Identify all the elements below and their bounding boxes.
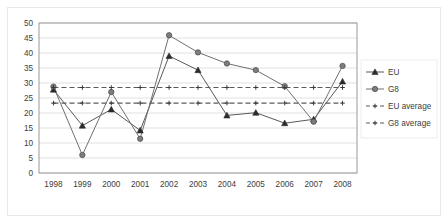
data-point-marker-plus [196,85,201,90]
data-point-marker-circle [311,119,316,124]
y-tick-label: 10 [24,139,34,148]
data-point-marker-plus [196,101,201,106]
legend-item-label: EU [388,68,399,77]
y-tick-label: 40 [24,49,34,58]
data-point-marker-plus [373,104,378,109]
y-tick-label: 0 [28,169,33,178]
x-tick-label: 2004 [218,180,237,189]
data-point-marker-plus [282,101,287,106]
data-point-marker-circle [253,67,258,72]
data-point-marker-plus [254,85,259,90]
legend-item-g8-average[interactable]: G8 average [366,119,431,128]
data-point-marker-plus [225,101,230,106]
legend-item-label: G8 average [388,119,431,128]
legend-item-label: EU average [388,102,432,111]
data-point-marker-triangle [339,78,345,84]
y-tick-label: 5 [28,154,33,163]
data-point-marker-plus [340,101,345,106]
data-point-marker-plus [80,101,85,106]
x-tick-label: 2003 [189,180,208,189]
data-point-marker-plus [138,101,143,106]
data-point-marker-plus [80,85,85,90]
y-tick-label: 50 [24,19,34,28]
data-point-marker-plus [167,101,172,106]
data-point-marker-circle [137,136,142,141]
data-point-marker-plus [109,85,114,90]
chart-frame: 05101520253035404550 1998199920002001200… [7,7,441,216]
data-point-marker-plus [138,85,143,90]
y-axis-tick-labels: 05101520253035404550 [24,19,34,178]
y-tick-label: 25 [24,94,34,103]
line-chart: 05101520253035404550 1998199920002001200… [8,8,440,215]
data-point-marker-circle [224,61,229,66]
x-tick-label: 1998 [44,180,63,189]
y-tick-label: 20 [24,109,34,118]
y-tick-label: 15 [24,124,34,133]
data-point-marker-plus [373,121,378,126]
data-point-marker-circle [166,33,171,38]
legend-item-g8[interactable]: G8 [366,85,399,94]
series-markers [50,33,345,158]
x-tick-label: 2000 [102,180,121,189]
x-tick-label: 2008 [333,180,352,189]
x-tick-label: 2006 [276,180,295,189]
y-tick-label: 30 [24,79,34,88]
legend-item-label: G8 [388,85,399,94]
grid-lines [39,23,357,173]
data-point-marker-plus [340,85,345,90]
data-point-marker-plus [51,101,56,106]
x-tick-label: 2002 [160,180,179,189]
data-point-marker-plus [254,101,259,106]
y-tick-label: 35 [24,64,34,73]
x-tick-label: 1999 [73,180,92,189]
x-tick-label: 2005 [247,180,266,189]
data-point-marker-plus [311,85,316,90]
y-tick-label: 45 [24,34,34,43]
x-tick-label: 2001 [131,180,150,189]
data-point-marker-triangle [108,106,114,112]
data-point-marker-circle [340,63,345,68]
data-point-marker-circle [80,152,85,157]
data-point-marker-circle [372,86,377,91]
data-point-marker-triangle [166,53,172,59]
x-axis-tick-labels: 1998199920002001200220032004200520062007… [44,180,352,189]
data-point-marker-plus [109,101,114,106]
x-tick-label: 2007 [305,180,324,189]
data-point-marker-plus [225,85,230,90]
legend-item-eu[interactable]: EU [366,68,399,77]
chart-legend: EUG8EU averageG8 average [361,60,437,138]
data-point-marker-plus [167,85,172,90]
data-point-marker-circle [109,89,114,94]
data-point-marker-plus [311,101,316,106]
legend-item-eu-average[interactable]: EU average [366,102,432,111]
data-point-marker-circle [195,50,200,55]
